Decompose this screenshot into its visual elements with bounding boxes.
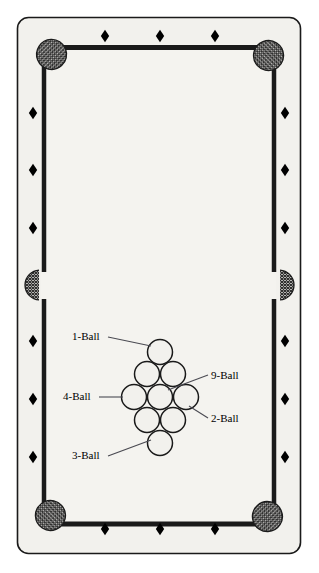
callout-label-2-ball: 2-Ball (211, 413, 239, 424)
pool-table-illustration (0, 0, 319, 573)
rack-ball-lower-left (135, 408, 160, 433)
callout-label-3-ball: 3-Ball (72, 450, 100, 461)
rack-ball-upper-left (135, 362, 160, 387)
1-ball (148, 340, 173, 365)
callout-label-4-ball: 4-Ball (63, 391, 91, 402)
4-ball (122, 385, 147, 410)
3-ball (148, 431, 173, 456)
2-ball (174, 385, 199, 410)
callout-label-9-ball: 9-Ball (211, 370, 239, 381)
callout-label-1-ball: 1-Ball (72, 331, 100, 342)
pool-table-diagram: 1-Ball9-Ball4-Ball2-Ball3-Ball (0, 0, 319, 573)
rack-ball-upper-right (161, 362, 186, 387)
rack-ball-lower-right (161, 408, 186, 433)
9-ball (148, 385, 173, 410)
